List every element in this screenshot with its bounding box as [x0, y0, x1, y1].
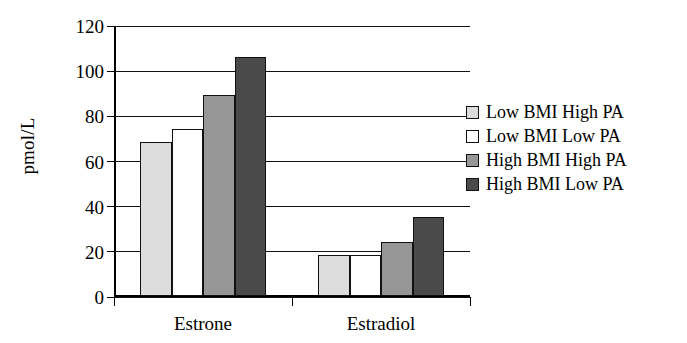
y-axis-tick	[107, 206, 114, 207]
y-axis-tick-label: 0	[95, 288, 105, 307]
bar	[350, 255, 382, 296]
legend-item-label: High BMI High PA	[486, 151, 627, 169]
y-axis-tick	[107, 161, 114, 162]
legend-item: Low BMI Low PA	[466, 124, 627, 148]
y-axis-title: pmol/L	[17, 86, 39, 206]
y-axis-tick-label: 100	[76, 62, 105, 81]
bar	[172, 129, 204, 296]
bar	[203, 95, 235, 296]
legend-item-label: Low BMI Low PA	[486, 127, 621, 145]
bar	[381, 242, 413, 296]
legend-swatch-icon	[466, 178, 479, 191]
x-axis-tick	[292, 297, 293, 306]
legend-item: Low BMI High PA	[466, 100, 627, 124]
x-axis-tick	[470, 297, 471, 306]
legend-swatch-icon	[466, 130, 479, 143]
legend-item: High BMI Low PA	[466, 172, 627, 196]
legend-item-label: Low BMI High PA	[486, 103, 624, 121]
legend-swatch-icon	[466, 154, 479, 167]
x-axis-category-label: Estrone	[174, 313, 232, 335]
gridline	[114, 71, 470, 72]
gridline	[114, 116, 470, 117]
y-axis-tick	[107, 116, 114, 117]
bar	[318, 255, 350, 296]
y-axis-tick-label: 40	[85, 197, 104, 216]
gridline	[114, 26, 470, 27]
bar	[413, 217, 445, 296]
y-axis-tick-label: 80	[85, 107, 104, 126]
legend: Low BMI High PA Low BMI Low PA High BMI …	[466, 100, 627, 196]
y-axis-tick	[107, 71, 114, 72]
y-axis-tick	[107, 251, 114, 252]
y-axis-tick-label: 20	[85, 242, 104, 261]
x-axis-tick	[114, 297, 115, 306]
plot-area: 120100806040200 EstroneEstradiol	[114, 26, 470, 297]
bar	[235, 57, 267, 296]
legend-swatch-icon	[466, 106, 479, 119]
y-axis-tick	[107, 297, 114, 298]
x-axis-category-label: Estradiol	[347, 313, 416, 335]
bar	[140, 142, 172, 296]
legend-item-label: High BMI Low PA	[486, 175, 624, 193]
bar-chart: pmol/L 120100806040200 EstroneEstradiol …	[0, 0, 687, 343]
y-axis-tick-label: 60	[85, 152, 104, 171]
legend-item: High BMI High PA	[466, 148, 627, 172]
y-axis-tick	[107, 26, 114, 27]
y-axis-tick-label: 120	[76, 17, 105, 36]
